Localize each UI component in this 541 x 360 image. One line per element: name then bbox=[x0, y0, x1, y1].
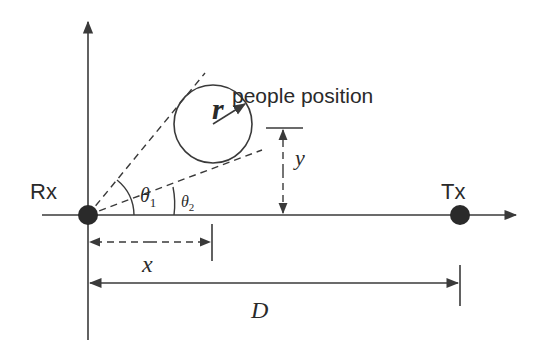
theta1-symbol: θ bbox=[140, 184, 150, 206]
rx-label: Rx bbox=[30, 179, 57, 204]
tx-label: Tx bbox=[441, 179, 465, 204]
theta2-subscript: 2 bbox=[189, 201, 195, 213]
theta1-subscript: 1 bbox=[150, 195, 157, 210]
radius-label: r bbox=[212, 92, 224, 125]
receiver-node bbox=[78, 205, 98, 225]
theta1-label: θ1 bbox=[140, 184, 156, 210]
theta2-symbol: θ bbox=[181, 193, 189, 210]
transmitter-node bbox=[450, 205, 470, 225]
geometry-diagram: people position Rx Tx r θ1 θ2 y x D bbox=[0, 0, 541, 360]
theta2-label: θ2 bbox=[181, 193, 194, 213]
y-label: y bbox=[293, 145, 305, 170]
people-position-label: people position bbox=[232, 84, 373, 107]
theta2-arc bbox=[173, 187, 175, 215]
x-label: x bbox=[141, 251, 153, 277]
theta1-arc bbox=[117, 180, 134, 215]
distance-label: D bbox=[250, 297, 268, 323]
